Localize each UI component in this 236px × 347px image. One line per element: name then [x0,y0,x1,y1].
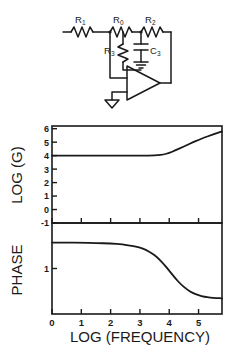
phase-x-ticklabels: 012345 [49,317,202,328]
phase-axis-label: PHASE [8,245,25,296]
label-r0: R0 [113,14,124,26]
y-tick-label: 3 [44,165,49,175]
gain-y-ticklabels: -10123456 [41,124,49,228]
gain-plot: -10123456 LOG (G) [8,124,222,228]
x-tick-label: 5 [196,317,202,328]
x-tick-label: 0 [49,317,54,328]
y-tick-label: -1 [41,218,49,228]
label-r3: R3 [104,45,115,57]
figure-root: R1 R0 R2 R3 C3 [0,0,236,347]
label-r2: R2 [145,14,156,26]
plots-svg: -10123456 LOG (G) 1 012345 PHASE LOG (FR… [0,118,236,347]
y-tick-label: 4 [44,151,49,161]
label-r1: R1 [75,14,86,26]
gain-curve [52,131,222,155]
x-tick-label: 2 [108,317,113,328]
ground-2-triangle [105,100,119,108]
phase-curve [52,243,222,299]
phase-y-ticklabels: 1 [44,264,49,274]
resistor-r0-symbol [110,27,132,37]
y-tick-label: 1 [44,191,49,201]
x-tick-label: 1 [79,317,85,328]
x-axis-label: LOG (FREQUENCY) [70,328,210,345]
label-c3: C3 [150,45,161,57]
resistor-r2-symbol [141,27,163,37]
x-tick-label: 4 [167,317,173,328]
plots-container: -10123456 LOG (G) 1 012345 PHASE LOG (FR… [0,118,236,347]
phase-plot: 1 012345 PHASE LOG (FREQUENCY) [8,223,222,345]
y-tick-label: 2 [44,178,49,188]
y-tick-label: 5 [44,138,49,148]
wire-opamp-noninv-gnd [112,92,127,100]
resistor-r3-symbol [118,44,128,62]
y-tick-label: 0 [44,205,49,215]
y-tick-label: 1 [44,264,49,274]
circuit-svg: R1 R0 R2 R3 C3 [0,0,236,118]
gain-axis-label: LOG (G) [8,146,25,204]
phase-plot-frame [52,223,222,314]
opamp-triangle [127,66,160,100]
x-tick-label: 3 [137,317,142,328]
resistor-r1-symbol [71,27,93,37]
circuit-schematic: R1 R0 R2 R3 C3 [0,0,236,118]
y-tick-label: 6 [44,124,49,134]
